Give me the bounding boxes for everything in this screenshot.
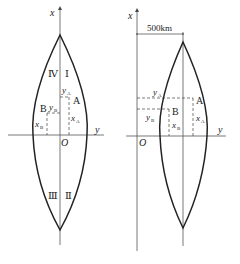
left-point-a-label: A bbox=[73, 95, 81, 106]
right-point-b-label: B bbox=[172, 106, 179, 117]
right-zone-outline bbox=[160, 42, 208, 228]
left-ya-label: y A bbox=[61, 85, 71, 96]
svg-text:B: B bbox=[40, 125, 44, 130]
quadrant-2-label: Ⅱ bbox=[65, 190, 72, 201]
right-y-axis-label: y bbox=[217, 124, 223, 135]
svg-text:x: x bbox=[195, 113, 200, 123]
right-ya-label: y A bbox=[152, 87, 162, 98]
svg-text:y: y bbox=[152, 87, 157, 97]
right-xa-label: x A bbox=[195, 113, 205, 124]
right-x-axis-label: x bbox=[127, 10, 133, 21]
svg-text:B: B bbox=[151, 118, 155, 123]
left-yb-label: y B bbox=[48, 102, 58, 113]
svg-text:y: y bbox=[48, 102, 53, 112]
left-origin-label: O bbox=[61, 137, 68, 148]
svg-text:x: x bbox=[70, 113, 75, 123]
svg-text:A: A bbox=[201, 119, 205, 124]
svg-text:y: y bbox=[61, 85, 66, 95]
right-xb-label: x B bbox=[171, 120, 181, 131]
right-origin-label: O bbox=[139, 137, 146, 148]
svg-text:y: y bbox=[145, 112, 150, 122]
offset-label: 500km bbox=[147, 23, 172, 33]
svg-text:x: x bbox=[34, 119, 39, 129]
quadrant-1-label: Ⅰ bbox=[65, 68, 69, 79]
left-diagram: x y O Ⅰ Ⅱ Ⅲ Ⅳ A B y A x A y B x B bbox=[8, 7, 104, 245]
quadrant-3-label: Ⅲ bbox=[48, 190, 58, 201]
left-y-axis-label: y bbox=[94, 124, 100, 135]
right-diagram: 500km x y O A B y A x A y B x B bbox=[126, 10, 226, 251]
left-xb-label: x B bbox=[34, 119, 44, 130]
svg-text:B: B bbox=[177, 126, 181, 131]
right-yb-label: y B bbox=[145, 112, 155, 123]
svg-text:A: A bbox=[67, 91, 71, 96]
right-point-a-label: A bbox=[196, 95, 204, 106]
svg-text:A: A bbox=[158, 93, 162, 98]
diagram-canvas: x y O Ⅰ Ⅱ Ⅲ Ⅳ A B y A x A y B x B bbox=[0, 0, 240, 264]
svg-text:A: A bbox=[76, 119, 80, 124]
left-point-b-label: B bbox=[40, 103, 47, 114]
left-xa-label: x A bbox=[70, 113, 80, 124]
svg-text:B: B bbox=[54, 108, 58, 113]
quadrant-4-label: Ⅳ bbox=[48, 68, 59, 79]
svg-text:x: x bbox=[171, 120, 176, 130]
left-x-axis-label: x bbox=[49, 7, 55, 18]
